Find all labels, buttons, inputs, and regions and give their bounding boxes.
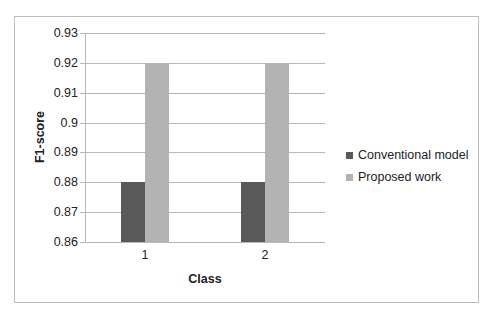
gridline [85, 152, 325, 153]
y-tick-label: 0.91 [54, 86, 78, 100]
y-tick-label: 0.93 [54, 26, 78, 40]
y-tick-label: 0.88 [54, 175, 78, 189]
legend-label: Proposed work [358, 170, 441, 184]
legend-item-proposed: Proposed work [346, 166, 469, 188]
legend-item-conventional: Conventional model [346, 144, 469, 166]
y-tick-mark [80, 242, 85, 243]
legend: Conventional model Proposed work [346, 144, 469, 188]
y-tick-mark [80, 93, 85, 94]
legend-swatch-icon [346, 152, 353, 159]
bar-conventional-model-class-2 [241, 182, 265, 242]
bar-conventional-model-class-1 [121, 182, 145, 242]
y-tick-mark [80, 212, 85, 213]
y-tick-mark [80, 63, 85, 64]
x-tick-label: 2 [262, 248, 269, 262]
legend-label: Conventional model [358, 148, 469, 162]
y-tick-mark [80, 123, 85, 124]
y-tick-mark [80, 152, 85, 153]
gridline [85, 123, 325, 124]
bar-proposed-work-class-2 [265, 63, 289, 242]
gridline [85, 93, 325, 94]
x-tick-label: 1 [142, 248, 149, 262]
bar-proposed-work-class-1 [145, 63, 169, 242]
y-tick-mark [80, 33, 85, 34]
legend-swatch-icon [346, 174, 353, 181]
y-tick-mark [80, 182, 85, 183]
y-tick-label: 0.89 [54, 145, 78, 159]
y-axis-title: F1-score [33, 111, 47, 163]
y-tick-label: 0.92 [54, 56, 78, 70]
y-axis-line [85, 33, 86, 243]
y-tick-label: 0.9 [61, 116, 78, 130]
y-tick-label: 0.86 [54, 235, 78, 249]
x-axis-title: Class [188, 272, 221, 286]
gridline [85, 33, 325, 34]
y-tick-label: 0.87 [54, 205, 78, 219]
gridline [85, 242, 325, 243]
gridline [85, 63, 325, 64]
